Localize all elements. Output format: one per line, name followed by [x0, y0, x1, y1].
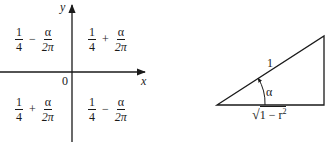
base-label: √1 − r2	[252, 107, 286, 123]
quadrant-top-left-expression: 14 − α2π	[15, 26, 54, 53]
sqrt-radicand: 1 − r2	[260, 106, 287, 122]
sqrt-symbol: √	[252, 107, 260, 122]
x-axis-label: x	[141, 74, 146, 89]
diagram-canvas	[0, 0, 330, 146]
y-axis-label: y	[60, 0, 65, 15]
quadrant-bottom-right-expression: 14 − α2π	[88, 96, 127, 123]
origin-label: 0	[62, 74, 68, 89]
quadrant-top-right-expression: 14 + α2π	[88, 26, 127, 53]
hypotenuse-label: 1	[267, 56, 273, 71]
angle-arc	[258, 78, 265, 105]
angle-label: α	[266, 85, 272, 100]
quadrant-bottom-left-expression: 14 + α2π	[15, 96, 54, 123]
